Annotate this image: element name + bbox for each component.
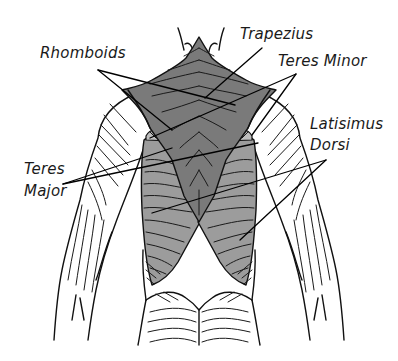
left-arm — [54, 94, 143, 340]
label-dorsi: Dorsi — [310, 136, 350, 154]
label-teres-minor: Teres Minor — [278, 52, 367, 70]
label-teres: Teres — [24, 160, 65, 178]
label-latissimus: Latisimus — [310, 115, 383, 133]
back-muscles-diagram: Trapezius Rhomboids Teres Minor Latisimu… — [0, 0, 398, 361]
label-rhomboids: Rhomboids — [40, 44, 126, 62]
label-major: Major — [24, 182, 67, 200]
label-trapezius: Trapezius — [240, 25, 313, 43]
